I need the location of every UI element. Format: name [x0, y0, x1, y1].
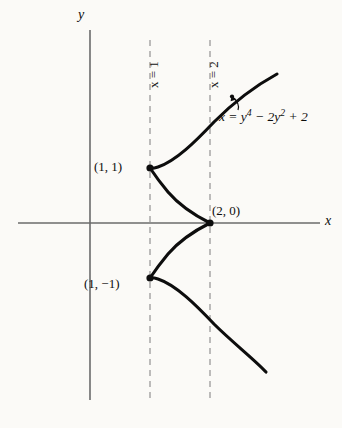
reference-line-label-x1: x = 1 — [146, 61, 162, 88]
equation-label: x = y4 − 2y2 + 2 — [219, 110, 308, 124]
point-label-1-minus1: (1, −1) — [84, 277, 120, 290]
equation-suffix: + 2 — [285, 109, 308, 124]
equation-middle: − 2y — [252, 109, 281, 124]
curve-upper-branch — [150, 74, 277, 223]
y-axis-label: y — [78, 8, 84, 22]
point-marker-2-0 — [206, 219, 213, 226]
point-marker-1-1 — [146, 164, 153, 171]
graph-canvas — [0, 0, 342, 428]
equation-prefix: x = y — [219, 109, 247, 124]
curve-lower-branch — [150, 223, 266, 372]
equation-anchor-dot — [230, 94, 234, 98]
point-label-1-1: (1, 1) — [94, 160, 122, 173]
figure-container: y x (1, 1) (1, −1) (2, 0) x = 1 x = 2 x … — [0, 0, 342, 428]
reference-line-label-x2: x = 2 — [206, 61, 222, 88]
x-axis-label: x — [325, 214, 331, 228]
point-marker-1-minus1 — [146, 274, 153, 281]
point-label-2-0: (2, 0) — [212, 204, 240, 217]
